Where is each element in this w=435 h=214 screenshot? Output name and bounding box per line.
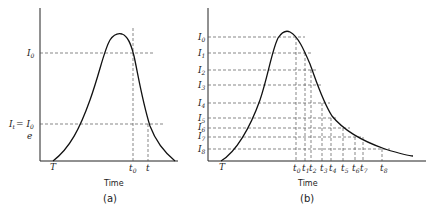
- panel-a-label-t0: t0: [129, 163, 137, 174]
- panel-a: I0 It= I0 e T t0 t Time (a): [8, 8, 178, 204]
- panel-a-label-T: T: [50, 162, 57, 172]
- panel-b-label-t4: t4: [329, 163, 337, 174]
- panel-b-label-t8: t8: [380, 163, 388, 174]
- panel-b-caption: (b): [300, 193, 314, 204]
- panel-a-label-t: t: [146, 163, 150, 173]
- panel-b-label-i3: I3: [197, 80, 206, 91]
- panel-b-label-t2: t2: [309, 163, 317, 174]
- panel-b-label-T: T: [219, 162, 226, 172]
- panel-b-label-i4: I4: [197, 98, 206, 109]
- panel-b-label-t7: t7: [360, 163, 368, 174]
- panel-b-intensity-curve: [221, 31, 413, 161]
- panel-b-label-t6: t6: [352, 163, 360, 174]
- panel-b-label-i8: I8: [197, 144, 206, 155]
- panel-a-caption: (a): [103, 193, 117, 204]
- panel-a-label-e: e: [27, 131, 32, 141]
- panel-b-label-i1: I1: [197, 48, 205, 59]
- panel-b-label-t3: t3: [320, 163, 328, 174]
- panel-b-label-t5: t5: [341, 163, 349, 174]
- diagram-canvas: I0 It= I0 e T t0 t Time (a): [0, 0, 435, 214]
- panel-a-label-i0: I0: [26, 48, 35, 59]
- panel-b: I0 I1 I2 I3 I4 I5 I6 I7 I8 T t0 t1 t2 t3…: [197, 8, 426, 204]
- panel-b-label-t0: t0: [293, 163, 301, 174]
- panel-b-label-i0: I0: [197, 32, 206, 43]
- panel-a-label-it: It= I0: [8, 119, 34, 130]
- panel-b-xlabel: Time: [297, 179, 318, 188]
- panel-a-xlabel: Time: [103, 179, 124, 188]
- panel-b-label-i2: I2: [197, 65, 206, 76]
